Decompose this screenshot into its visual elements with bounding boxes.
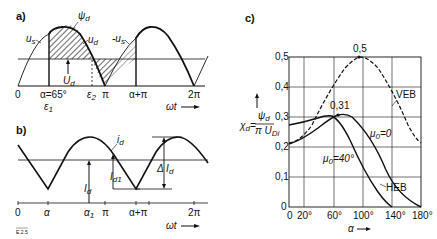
tick-a-0: 0 bbox=[15, 89, 21, 100]
tick-b-2pi: 2π bbox=[188, 207, 201, 218]
ytick-0-2: 0,2 bbox=[275, 141, 289, 152]
panel-a: a) us ψd ud -us Ud bbox=[15, 10, 208, 114]
y-label-denominator: π UDi bbox=[255, 125, 279, 138]
y-label-numerator: ψd bbox=[258, 110, 270, 123]
label-neg-us: -us bbox=[112, 33, 125, 46]
annotation-heb: HEB bbox=[386, 182, 407, 193]
x-axis-arrow-a-head bbox=[194, 105, 200, 109]
annotation-mu0-0: μ0=0 bbox=[369, 128, 392, 141]
label-Id: Id bbox=[84, 183, 92, 196]
xtick-60: 60° bbox=[327, 210, 342, 221]
ud-arrow-head bbox=[66, 59, 70, 64]
delta-Id-arrow-top bbox=[162, 137, 166, 142]
leader-veb bbox=[392, 100, 397, 106]
heb-peak-marker bbox=[336, 113, 339, 116]
label-delta-Id: Δ Id bbox=[156, 163, 174, 176]
xtick-180: 180° bbox=[412, 210, 433, 221]
tick-b-alpha1: α1 bbox=[84, 207, 94, 220]
tick-b-pi: π bbox=[102, 207, 109, 218]
figure-ref: E.2.5 bbox=[16, 229, 28, 235]
annotation-veb: VEB bbox=[396, 89, 416, 100]
panel-b: b) id Id Id1 Δ Id bbox=[15, 124, 208, 235]
ytick-0-5: 0,5 bbox=[275, 51, 289, 62]
veb-peak-marker bbox=[357, 55, 360, 58]
ytick-0-1: 0,1 bbox=[275, 171, 289, 182]
label-psi: ψd bbox=[78, 10, 90, 23]
leader-neg-us bbox=[125, 40, 129, 44]
curve-tail bbox=[194, 56, 208, 86]
label-Id1: Id1 bbox=[110, 171, 122, 184]
tick-a-alpha-pi: α+π bbox=[129, 89, 148, 100]
ytick-0-3: 0,3 bbox=[275, 111, 289, 122]
label-us: us bbox=[26, 33, 36, 46]
panel-c-label: c) bbox=[245, 12, 255, 24]
panel-c: c) 0,5 0,4 0,3 0,2 0,1 0 0 20° bbox=[239, 12, 433, 234]
Id-arrow-head bbox=[87, 160, 91, 165]
tick-a-eps1: ε1 bbox=[44, 101, 53, 114]
annotation-peak-heb: 0,31 bbox=[330, 100, 350, 111]
tick-a-2pi: 2π bbox=[188, 89, 201, 100]
figure-canvas: a) us ψd ud -us Ud bbox=[0, 0, 437, 239]
tick-a-pi: π bbox=[102, 89, 109, 100]
tick-a-alpha: α=65° bbox=[40, 89, 67, 100]
label-ud: ud bbox=[88, 34, 99, 47]
panel-b-label: b) bbox=[16, 124, 27, 136]
tick-b-alpha: α bbox=[44, 207, 50, 218]
curve-ud-2 bbox=[136, 27, 194, 86]
tick-b-alpha-pi: α+π bbox=[129, 207, 148, 218]
y-axis-arrow-c-head bbox=[255, 93, 259, 98]
panel-a-label: a) bbox=[16, 10, 26, 22]
x-axis-arrow-c-head bbox=[366, 227, 371, 231]
curve-veb bbox=[289, 57, 421, 143]
xtick-0: 0 bbox=[287, 210, 293, 221]
tick-a-eps2: ε2 bbox=[87, 89, 96, 102]
xtick-100: 100° bbox=[353, 210, 374, 221]
x-axis-label-a: ωt bbox=[166, 101, 178, 112]
annotation-mu0-40: μ0=40° bbox=[322, 153, 354, 166]
annotation-peak-veb: 0,5 bbox=[353, 43, 367, 54]
leader-id bbox=[111, 144, 117, 151]
xtick-140: 140° bbox=[385, 210, 406, 221]
curve-heb-mu0-0 bbox=[289, 114, 421, 207]
tick-b-0: 0 bbox=[15, 207, 21, 218]
ytick-0-4: 0,4 bbox=[275, 81, 289, 92]
xtick-20: 20° bbox=[297, 210, 312, 221]
delta-Id-arrow-bottom bbox=[162, 184, 166, 189]
x-axis-arrow-b-head bbox=[194, 224, 200, 228]
label-id: id bbox=[117, 134, 124, 147]
x-axis-label-b: ωt bbox=[166, 220, 178, 231]
y-label-chi: χd= bbox=[239, 120, 256, 133]
x-axis-label-c: α bbox=[348, 223, 354, 234]
